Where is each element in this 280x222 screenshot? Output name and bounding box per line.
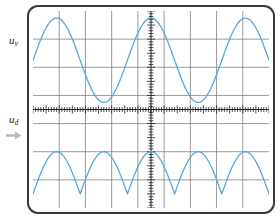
scope-screen (33, 11, 269, 208)
channel-label-ud-subscript: d (14, 118, 18, 127)
channel-label-uv-subscript: v (15, 39, 18, 48)
right-arrow-icon (6, 131, 22, 140)
channel-label-uv: uv (0, 35, 27, 47)
channel-label-column: uv ud (0, 0, 27, 222)
oscilloscope-figure: uv ud (0, 0, 280, 222)
channel-label-ud: ud (0, 114, 27, 126)
waveform-plot (33, 11, 269, 208)
